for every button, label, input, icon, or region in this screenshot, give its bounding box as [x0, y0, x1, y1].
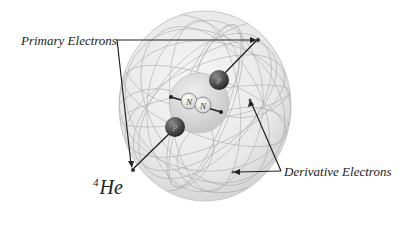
- derivative-electron-right: [249, 99, 252, 102]
- neutron-1: N: [181, 93, 197, 109]
- proton-label: P: [172, 124, 178, 133]
- proton-top: P: [209, 70, 229, 90]
- element-symbol: He: [100, 176, 123, 198]
- derivative-electrons-label: Derivative Electrons: [284, 164, 391, 180]
- proton-label: P: [216, 77, 222, 86]
- derivative-electron-bottom: [232, 171, 235, 174]
- primary-electron-bottom: [131, 168, 135, 172]
- primary-electron-top: [256, 38, 260, 42]
- helium-4-label: 4He: [93, 176, 123, 199]
- neutron-2: N: [195, 97, 211, 113]
- primary-electrons-label: Primary Electrons: [21, 33, 117, 49]
- mass-number: 4: [93, 176, 99, 188]
- neutron-label: N: [199, 101, 207, 111]
- neutron-label: N: [185, 97, 193, 107]
- proton-bottom: P: [165, 117, 185, 137]
